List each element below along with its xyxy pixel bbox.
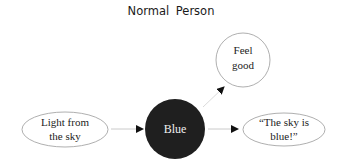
node-sky-is-blue: “The sky is blue!”	[243, 113, 325, 146]
node-feel-good: Feel good	[216, 33, 270, 87]
flow-diagram: Light from the sky Blue Feel good “The s…	[0, 0, 342, 167]
node-label: “The sky is	[259, 116, 309, 128]
edge-arrow	[203, 87, 224, 107]
node-label: Feel	[234, 44, 253, 56]
node-blue: Blue	[145, 99, 205, 159]
node-label: Blue	[164, 122, 187, 136]
node-light-from-sky: Light from the sky	[22, 112, 108, 147]
node-label: blue!”	[270, 130, 298, 142]
node-label: good	[232, 59, 255, 71]
node-label: Light from	[41, 116, 89, 128]
node-label: the sky	[49, 130, 81, 142]
